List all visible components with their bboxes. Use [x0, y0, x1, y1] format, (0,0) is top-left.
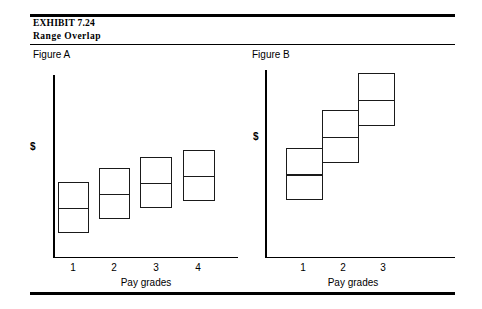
range-midpoint-line — [141, 183, 171, 184]
figure-a-label: Figure A — [33, 49, 70, 60]
range-midpoint-line — [287, 174, 322, 175]
range-box-grade-3 — [140, 157, 172, 208]
range-box-grade-1 — [58, 182, 89, 233]
range-midpoint-line — [100, 194, 129, 195]
range-midpoint-line — [59, 208, 88, 209]
y-axis-label-figure-b: $ — [253, 131, 259, 142]
range-midpoint-line — [359, 100, 394, 101]
x-tick-label-2: 2 — [104, 262, 124, 273]
x-tick-label-3: 3 — [146, 262, 166, 273]
x-axis-title-figure-b: Pay grades — [293, 277, 413, 288]
range-midpoint-line — [184, 176, 214, 177]
exhibit-page: EXHIBIT 7.24 Range Overlap $ 1 2 3 4 Pay… — [0, 0, 482, 309]
x-tick-label-2: 2 — [333, 262, 353, 273]
range-box-grade-1 — [286, 148, 323, 200]
range-box-grade-4 — [183, 150, 215, 201]
x-axis-figure-a — [53, 257, 238, 259]
y-axis-label-figure-a: $ — [30, 141, 36, 152]
y-axis-figure-a — [53, 75, 55, 258]
range-box-grade-2 — [322, 110, 359, 163]
y-axis-figure-b — [265, 70, 267, 258]
x-tick-label-1: 1 — [63, 262, 83, 273]
chart-figure-a: $ 1 2 3 4 Pay grades — [0, 0, 241, 309]
range-box-grade-2 — [99, 168, 130, 219]
range-midpoint-line — [323, 137, 358, 138]
x-tick-label-3: 3 — [373, 262, 393, 273]
x-tick-label-1: 1 — [293, 262, 313, 273]
x-axis-title-figure-a: Pay grades — [86, 277, 206, 288]
chart-figure-b: $ 1 2 3 Pay grades — [212, 0, 453, 309]
figure-b-label: Figure B — [252, 49, 290, 60]
x-tick-label-4: 4 — [188, 262, 208, 273]
range-box-grade-3 — [358, 73, 395, 126]
x-axis-figure-b — [265, 257, 455, 259]
